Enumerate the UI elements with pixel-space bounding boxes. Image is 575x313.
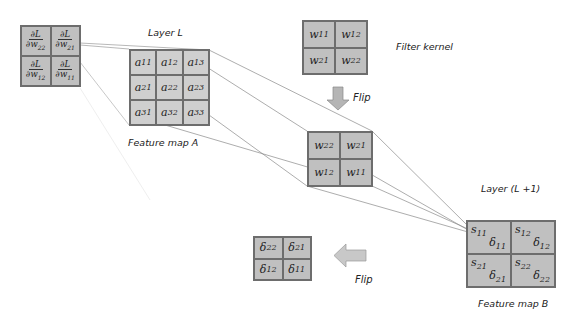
delta-flipped-cell: δ12 xyxy=(254,259,283,281)
gradient-cell: ∂L∂w22 xyxy=(21,26,51,56)
filter-kernel-cell: w12 xyxy=(335,21,367,48)
feature-map-b-cell: s12δ12 xyxy=(511,221,555,254)
layer-l1-title: Layer (L +1) xyxy=(481,183,540,194)
filter-kernel-caption: Filter kernel xyxy=(396,41,453,52)
feature-map-a-cell: a13 xyxy=(183,50,209,75)
filter-kernel-cell: w11 xyxy=(303,21,335,48)
feature-map-a-caption: Feature map A xyxy=(128,137,198,148)
flipped-kernel-cell: w22 xyxy=(308,132,340,159)
gradient-grid: ∂L∂w22 ∂L∂w21 ∂L∂w12 ∂L∂w11 xyxy=(20,25,81,87)
filter-kernel-cell: w22 xyxy=(335,48,367,75)
flip-left-arrow-icon xyxy=(334,244,366,267)
feature-map-a-cell: a33 xyxy=(183,100,209,125)
gradient-cell: ∂L∂w21 xyxy=(51,26,81,56)
filter-kernel-cell: w21 xyxy=(303,48,335,75)
flipped-kernel-cell: w12 xyxy=(308,159,340,186)
feature-map-a-cell: a23 xyxy=(183,75,209,100)
feature-map-b-grid: s11δ11 s12δ12 s21δ21 s22δ22 xyxy=(466,220,556,288)
feature-map-b-cell: s11δ11 xyxy=(467,221,511,254)
feature-map-a-cell: a22 xyxy=(156,75,182,100)
feature-map-a-cell: a12 xyxy=(156,50,182,75)
feature-map-a-cell: a31 xyxy=(130,100,156,125)
delta-flipped-grid: δ22 δ21 δ12 δ11 xyxy=(253,236,312,281)
feature-map-a-cell: a32 xyxy=(156,100,182,125)
feature-map-a-cell: a21 xyxy=(130,75,156,100)
flipped-kernel-grid: w22 w21 w12 w11 xyxy=(307,131,373,187)
feature-map-b-caption: Feature map B xyxy=(478,298,548,309)
feature-map-b-cell: s21δ21 xyxy=(467,254,511,287)
flip-down-label: Flip xyxy=(353,92,371,103)
feature-map-a-grid: a11 a12 a13 a21 a22 a23 a31 a32 a33 xyxy=(129,49,210,126)
gradient-cell: ∂L∂w11 xyxy=(51,56,81,86)
gradient-cell: ∂L∂w12 xyxy=(21,56,51,86)
delta-flipped-cell: δ22 xyxy=(254,237,283,259)
feature-map-a-cell: a11 xyxy=(130,50,156,75)
layer-l-title: Layer L xyxy=(148,27,183,38)
filter-kernel-grid: w11 w12 w21 w22 xyxy=(302,20,368,75)
delta-flipped-cell: δ11 xyxy=(283,259,312,281)
flipped-kernel-cell: w11 xyxy=(340,159,372,186)
feature-map-b-cell: s22δ22 xyxy=(511,254,555,287)
delta-flipped-cell: δ21 xyxy=(283,237,312,259)
flipped-kernel-cell: w21 xyxy=(340,132,372,159)
flip-left-label: Flip xyxy=(355,274,373,285)
flip-down-arrow-icon xyxy=(327,87,349,110)
